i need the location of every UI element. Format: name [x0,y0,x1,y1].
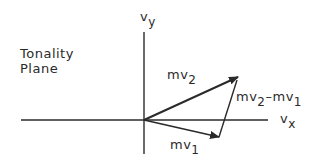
mv1-label: mv1 [170,138,200,152]
tonality-plane-diagram: Tonality Plane vy vx mv2 mv1 mv2–mv1 [0,0,315,167]
y-axis-label: vy [140,10,156,24]
mv2-minus-mv1-label: mv2–mv1 [236,90,302,104]
diagram-graphics [0,0,315,167]
title-line-2: Plane [20,62,58,76]
vector-mv2-minus-mv1 [219,80,237,137]
x-axis-label: vx [280,112,296,126]
mv2-label: mv2 [167,68,197,82]
title-line-1: Tonality [20,47,74,61]
vector-mv1 [144,120,219,137]
